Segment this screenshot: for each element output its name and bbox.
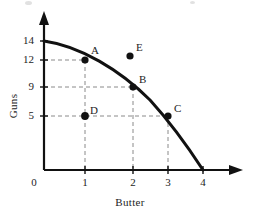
up-arrow-icon xyxy=(39,11,49,25)
data-point-c[interactable] xyxy=(164,112,171,119)
point-label-a: A xyxy=(91,44,99,56)
data-point-e[interactable] xyxy=(126,52,133,59)
point-label-e: E xyxy=(136,41,143,53)
x-tick-label-3: 3 xyxy=(161,176,175,188)
data-point-b[interactable] xyxy=(129,83,136,90)
guide-lines xyxy=(44,60,168,170)
y-tick-label-12: 12 xyxy=(12,53,34,65)
data-point-d[interactable] xyxy=(81,112,89,120)
x-tick-label-4: 4 xyxy=(196,176,210,188)
ppf-chart: 14 12 9 5 0 1 2 3 4 Guns Butter A B C D … xyxy=(0,0,257,215)
point-label-d: D xyxy=(90,104,98,116)
x-tick-label-0: 0 xyxy=(27,176,41,188)
x-tick-label-2: 2 xyxy=(126,176,140,188)
y-axis-title: Guns xyxy=(7,84,19,128)
x-axis-title: Butter xyxy=(90,196,170,208)
right-arrow-icon xyxy=(229,165,243,175)
data-point-a[interactable] xyxy=(81,56,88,63)
point-label-c: C xyxy=(174,102,181,114)
point-label-b: B xyxy=(139,73,146,85)
x-tick-label-1: 1 xyxy=(78,176,92,188)
y-tick-label-14: 14 xyxy=(12,34,34,46)
